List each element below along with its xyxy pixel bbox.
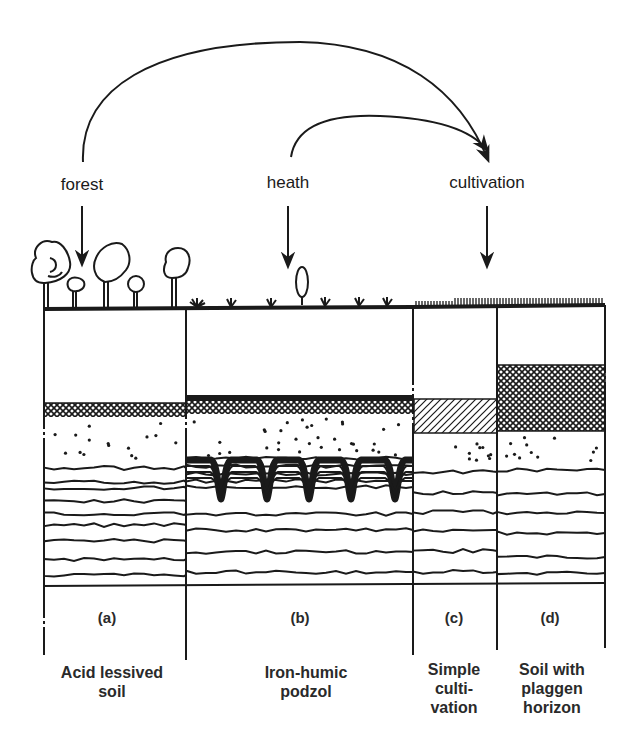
strata-lines-a (44, 466, 186, 576)
sand-dots-d (505, 436, 598, 462)
profile-labels: (a) (b) (c) (d) Acid lessived soil Iron-… (61, 609, 585, 716)
name-a-line1: Acid lessived (61, 664, 163, 681)
plaggen-horizon-d (497, 365, 605, 431)
plough-layer-c (414, 399, 497, 433)
humus-layer-a (44, 403, 186, 417)
profile-c (413, 399, 497, 574)
label-forest: forest (61, 175, 104, 194)
name-d-line2: plaggen (521, 680, 582, 697)
tree-icons (32, 241, 190, 309)
land-use-labels: forest heath cultivation (61, 173, 525, 194)
arrow-heath-to-cultivation-icon (291, 116, 487, 157)
letter-d: (d) (540, 609, 559, 626)
name-d-line1: Soil with (519, 661, 585, 678)
soil-profile-diagram: forest heath cultivation (0, 0, 634, 746)
name-a-line2: soil (98, 683, 126, 700)
name-d-line3: horizon (523, 699, 581, 716)
label-heath: heath (267, 173, 310, 192)
profile-base-line (43, 583, 605, 586)
letter-c: (c) (445, 609, 463, 626)
humus-layer-b (186, 401, 413, 414)
strata-lines-c (413, 470, 497, 574)
strata-lines-d (497, 469, 605, 575)
profile-a (44, 403, 186, 577)
transition-arrows (82, 42, 488, 266)
name-c-line1: Simple (428, 661, 481, 678)
heath-shrub-icons (190, 267, 392, 307)
sand-dots-c (454, 442, 492, 462)
raw-humus-band-b (186, 395, 413, 401)
letter-b: (b) (290, 609, 309, 626)
name-c-line3: vation (430, 699, 477, 716)
name-c-line2: culti- (435, 680, 473, 697)
arrow-forest-to-cultivation-icon (83, 42, 488, 162)
sand-dots-b (193, 418, 401, 458)
sand-dots-a (54, 422, 178, 460)
ground-surface-line (43, 305, 605, 309)
name-b-line2: podzol (280, 683, 332, 700)
letter-a: (a) (98, 609, 116, 626)
name-b-line1: Iron-humic (265, 664, 348, 681)
label-cultivation: cultivation (449, 173, 525, 192)
profile-b (186, 395, 413, 574)
profile-d (497, 365, 605, 575)
